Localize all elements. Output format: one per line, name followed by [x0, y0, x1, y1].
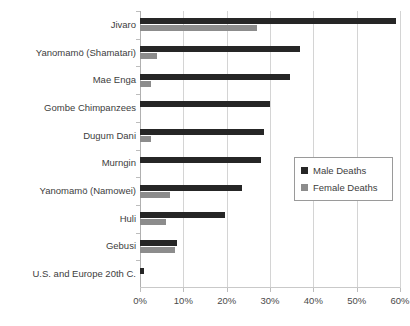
x-tick-mark: [313, 288, 314, 292]
category-label: Gombe Chimpanzees: [0, 102, 136, 113]
bar-male: [140, 268, 144, 274]
x-tick-mark: [270, 288, 271, 292]
bar-female: [140, 136, 151, 142]
y-tick-mark: [136, 177, 140, 178]
x-tick-label: 30%: [260, 295, 279, 306]
bar-female: [140, 247, 175, 253]
bar-group: [140, 101, 400, 114]
bar-group: [140, 129, 400, 142]
bar-male: [140, 212, 225, 218]
category-label: Mae Enga: [0, 74, 136, 85]
chart-legend: Male Deaths Female Deaths: [294, 157, 393, 201]
category-label: Dugum Dani: [0, 130, 136, 141]
x-tick-label: 20%: [217, 295, 236, 306]
bar-male: [140, 46, 300, 52]
bar-male: [140, 129, 264, 135]
bar-female: [140, 81, 151, 87]
y-tick-mark: [136, 11, 140, 12]
bar-female: [140, 53, 157, 59]
x-tick-mark: [400, 288, 401, 292]
x-tick-label: 10%: [174, 295, 193, 306]
x-tick-label: 40%: [304, 295, 323, 306]
category-label: Gebusi: [0, 240, 136, 251]
bar-male: [140, 18, 396, 24]
bar-group: [140, 268, 400, 281]
bar-group: [140, 212, 400, 225]
category-label: Yanomamö (Shamatari): [0, 47, 136, 58]
bar-female: [140, 192, 170, 198]
legend-label-female: Female Deaths: [313, 182, 377, 193]
y-tick-mark: [136, 260, 140, 261]
y-tick-mark: [136, 233, 140, 234]
bar-group: [140, 46, 400, 59]
bar-group: [140, 18, 400, 31]
bar-male: [140, 101, 270, 107]
x-tick-label: 0%: [133, 295, 147, 306]
bar-male: [140, 240, 177, 246]
x-tick-mark: [140, 288, 141, 292]
bar-male: [140, 185, 242, 191]
bar-female: [140, 25, 257, 31]
y-tick-mark: [136, 122, 140, 123]
x-tick-label: 50%: [347, 295, 366, 306]
x-tick-label: 60%: [390, 295, 409, 306]
legend-item-female: Female Deaths: [301, 180, 386, 194]
category-label: Murngin: [0, 157, 136, 168]
x-tick-mark: [357, 288, 358, 292]
y-tick-mark: [136, 66, 140, 67]
category-label: U.S. and Europe 20th C.: [0, 268, 136, 279]
gridline-60%: [400, 11, 401, 288]
bar-male: [140, 157, 261, 163]
legend-swatch-female: [301, 184, 308, 191]
category-label: Jivaro: [0, 19, 136, 30]
bar-group: [140, 74, 400, 87]
x-tick-mark: [183, 288, 184, 292]
bar-male: [140, 74, 290, 80]
legend-item-male: Male Deaths: [301, 163, 386, 177]
y-tick-mark: [136, 39, 140, 40]
legend-swatch-male: [301, 167, 308, 174]
category-label: Huli: [0, 213, 136, 224]
bar-female: [140, 219, 166, 225]
x-axis-tick-labels: 0%10%20%30%40%50%60%: [140, 292, 400, 310]
y-tick-mark: [136, 94, 140, 95]
plot-area: [140, 11, 400, 288]
category-label: Yanomamö (Namowei): [0, 185, 136, 196]
category-axis-labels: JivaroYanomamö (Shamatari)Mae EngaGombe …: [0, 11, 136, 288]
y-tick-mark: [136, 150, 140, 151]
x-tick-mark: [227, 288, 228, 292]
bar-rows: [140, 11, 400, 288]
y-tick-mark: [136, 205, 140, 206]
bar-group: [140, 240, 400, 253]
legend-label-male: Male Deaths: [313, 165, 366, 176]
